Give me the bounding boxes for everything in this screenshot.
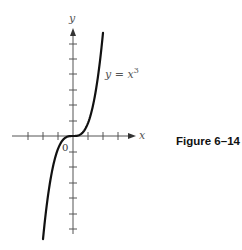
y-axis-label: y bbox=[68, 12, 76, 25]
curve-label: y = x3 bbox=[104, 66, 139, 81]
origin-label: 0 bbox=[62, 142, 68, 153]
curve-label-main: y = x bbox=[104, 68, 134, 81]
figure-caption: Figure 6–14 bbox=[176, 135, 240, 147]
y-axis-arrow-icon bbox=[70, 28, 76, 36]
x-axis-arrow-icon bbox=[128, 133, 136, 139]
cubic-function-plot: x y 0 y = x3 bbox=[0, 0, 242, 250]
curve-label-exponent: 3 bbox=[134, 66, 139, 75]
x-axis-label: x bbox=[139, 129, 146, 142]
y-axis: y bbox=[68, 12, 77, 234]
